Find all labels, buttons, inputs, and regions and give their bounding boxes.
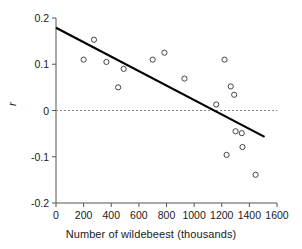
data-point-marker [116,85,121,90]
data-point-marker [104,59,109,64]
data-point-marker [150,57,155,62]
data-point-marker [91,37,96,42]
data-point-marker [121,66,126,71]
y-axis-title: r [6,102,18,106]
data-point-marker [222,57,227,62]
data-points-group [81,37,258,177]
y-tick-label: -0.2 [31,198,49,209]
data-point-marker [182,76,187,81]
data-point-marker [214,102,219,107]
data-point-marker [232,92,237,97]
scatter-plot-figure: -0.2-0.100.10.2 020040060080010001200140… [0,0,302,249]
data-point-marker [233,129,238,134]
x-tick-label: 1600 [257,210,297,221]
trend-line [56,28,265,137]
y-tick-label: 0.2 [34,13,49,24]
data-point-marker [228,84,233,89]
y-tick-label: 0.1 [34,59,49,70]
data-point-marker [253,172,258,177]
x-axis-ticks [56,203,277,207]
regression-trend-line [56,28,265,137]
y-axis-ticks [52,18,56,203]
data-point-marker [239,131,244,136]
y-tick-label: 0 [43,106,49,117]
data-point-marker [81,57,86,62]
y-tick-label: -0.1 [31,152,49,163]
data-point-marker [162,50,167,55]
data-point-marker [240,144,245,149]
x-axis-title: Number of wildebeest (thousands) [0,228,302,240]
data-point-marker [224,152,229,157]
